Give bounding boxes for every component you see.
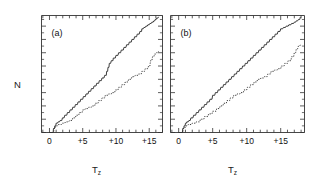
x-tick-label: +15 [142,136,157,146]
panel-a: 0+5+10+1501020304050607080(a) [41,15,163,150]
panel-b-plot: 0+5+10+15(b) [170,15,305,150]
panel-tag: (a) [52,28,63,38]
panel-a-plot: 0+5+10+1501020304050607080(a) [41,15,163,150]
figure-root: N 0+5+10+1501020304050607080(a) 0+5+10+1… [0,0,324,182]
panel-tag: (b) [181,28,192,38]
solid-staircase-b [179,17,301,133]
solid-staircase-a [49,17,158,133]
x-tick-label: +10 [109,136,124,146]
y-axis-label: N [14,79,21,90]
x-axis-label-sub-a: z [98,169,101,176]
x-tick-label: +10 [239,136,254,146]
x-axis-label-panel-a: Tz [92,164,101,176]
x-axis-label-panel-b: Tz [228,164,237,176]
x-tick-label: 0 [47,136,52,146]
x-tick-label: +5 [208,136,218,146]
x-axis-label-sub-b: z [234,169,237,176]
dotted-staircase-b [179,45,301,133]
dotted-staircase-a [49,51,158,132]
x-tick-label: 0 [176,136,181,146]
x-tick-label: +5 [78,136,88,146]
x-tick-label: +15 [273,136,288,146]
panel-b: 0+5+10+15(b) [170,15,305,150]
